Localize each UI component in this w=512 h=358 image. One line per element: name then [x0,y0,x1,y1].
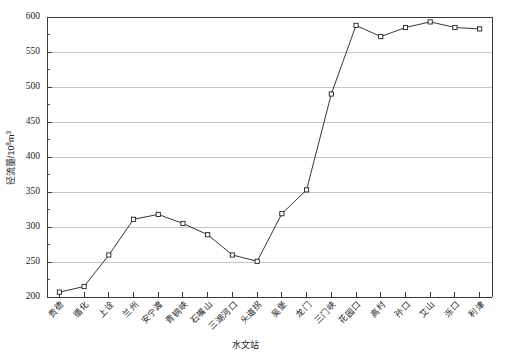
data-point-marker [329,92,333,96]
data-point-marker [107,253,111,257]
y-axis-title-unit-exp: 3 [5,130,12,134]
y-axis-title-unit: m [6,134,16,142]
data-point-marker [403,25,407,29]
data-point-marker [57,290,61,294]
data-point-marker [255,259,259,263]
data-point-marker [453,25,457,29]
y-tick-label-400: 400 [26,151,41,161]
data-point-marker [428,20,432,24]
y-tick-label-500: 500 [26,81,41,91]
y-tick-label-200: 200 [26,291,41,301]
y-tick-label-450: 450 [26,116,41,126]
data-point-marker [379,35,383,39]
data-point-marker [82,284,86,288]
y-tick-label-250: 250 [26,256,41,266]
chart-canvas: 200250300350400450500550600 贵德循化上诠兰州安宁渡青… [0,0,512,358]
data-point-marker [280,212,284,216]
data-point-marker [478,27,482,31]
data-point-marker [181,221,185,225]
y-tick-label-350: 350 [26,186,41,196]
y-axis-title-main: 径流量/10 [5,146,16,186]
data-point-marker [304,188,308,192]
y-axis-title: 径流量/108m3 [5,130,17,185]
data-point-marker [354,23,358,27]
x-axis-title: 水文站 [232,339,259,350]
y-tick-label-600: 600 [26,11,41,21]
data-point-marker [156,212,160,216]
y-axis-tick-labels: 200250300350400450500550600 [26,11,41,301]
data-point-marker [230,253,234,257]
y-axis-title-text: 径流量/108m3 [5,130,17,185]
data-point-marker [206,233,210,237]
y-tick-label-550: 550 [26,46,41,56]
runoff-line-chart: 200250300350400450500550600 贵德循化上诠兰州安宁渡青… [0,0,512,358]
data-point-marker [131,217,135,221]
y-tick-label-300: 300 [26,221,41,231]
